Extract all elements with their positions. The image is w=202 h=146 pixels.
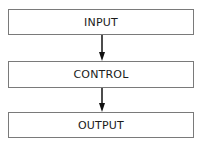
arrow-input-to-control	[99, 35, 105, 61]
connector-arrows	[0, 0, 202, 146]
arrow-control-to-output	[99, 88, 105, 112]
